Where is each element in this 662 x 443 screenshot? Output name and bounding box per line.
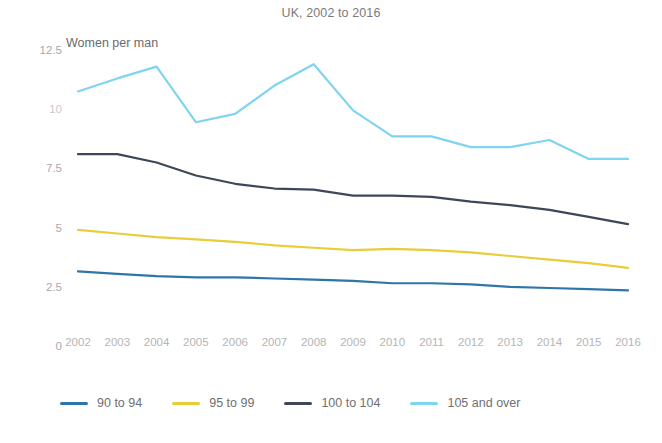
legend-item[interactable]: 95 to 99 <box>172 396 254 410</box>
line-chart: UK, 2002 to 2016 Women per man 02.557.51… <box>0 0 662 443</box>
plot-area <box>70 50 636 346</box>
series-line <box>78 230 628 268</box>
x-tick-label: 2003 <box>95 336 139 348</box>
series-line <box>78 64 628 159</box>
x-tick-label: 2002 <box>56 336 100 348</box>
legend-label: 90 to 94 <box>97 396 142 410</box>
legend-item[interactable]: 100 to 104 <box>284 396 380 410</box>
y-tick-label: 2.5 <box>0 281 62 293</box>
legend-item[interactable]: 90 to 94 <box>60 396 142 410</box>
x-tick-label: 2016 <box>606 336 650 348</box>
legend-label: 95 to 99 <box>209 396 254 410</box>
legend-swatch-icon <box>60 402 88 405</box>
legend-label: 105 and over <box>447 396 520 410</box>
legend-item[interactable]: 105 and over <box>410 396 520 410</box>
x-tick-label: 2015 <box>567 336 611 348</box>
legend-swatch-icon <box>172 402 200 405</box>
x-axis-tick-labels: 2002200320042005200620072008200920102011… <box>0 336 662 360</box>
legend-swatch-icon <box>410 402 438 405</box>
series-line <box>78 154 628 224</box>
x-tick-label: 2006 <box>213 336 257 348</box>
y-axis-caption: Women per man <box>66 36 158 50</box>
y-tick-label: 12.5 <box>0 44 62 56</box>
y-tick-label: 10 <box>0 103 62 115</box>
y-tick-label: 7.5 <box>0 162 62 174</box>
x-tick-label: 2014 <box>527 336 571 348</box>
x-tick-label: 2010 <box>370 336 414 348</box>
x-tick-label: 2007 <box>252 336 296 348</box>
x-tick-label: 2008 <box>292 336 336 348</box>
chart-legend: 90 to 9495 to 99100 to 104105 and over <box>60 396 550 410</box>
x-tick-label: 2009 <box>331 336 375 348</box>
series-canvas <box>70 50 636 346</box>
x-tick-label: 2013 <box>488 336 532 348</box>
x-tick-label: 2012 <box>449 336 493 348</box>
legend-label: 100 to 104 <box>321 396 380 410</box>
series-line <box>78 271 628 290</box>
y-tick-label: 5 <box>0 222 62 234</box>
x-tick-label: 2005 <box>174 336 218 348</box>
x-tick-label: 2004 <box>135 336 179 348</box>
y-axis-tick-labels: 02.557.51012.5 <box>0 50 62 346</box>
chart-title: UK, 2002 to 2016 <box>0 6 662 20</box>
x-tick-label: 2011 <box>410 336 454 348</box>
legend-swatch-icon <box>284 402 312 405</box>
